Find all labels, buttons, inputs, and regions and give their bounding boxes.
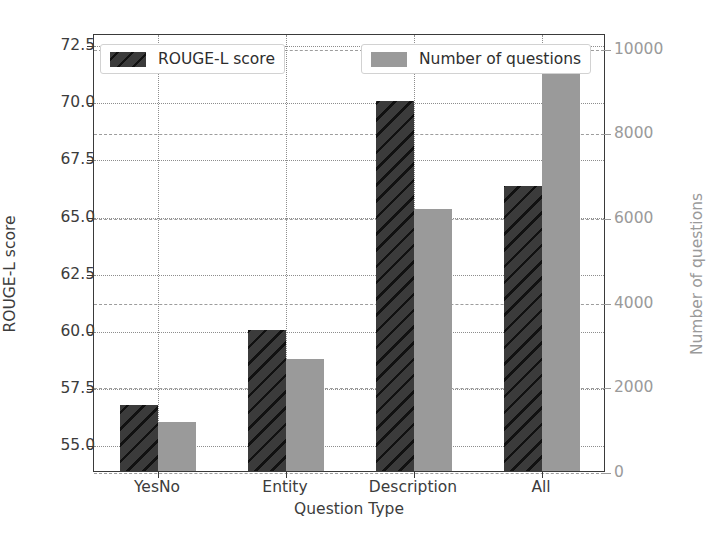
bar-questions-yesno <box>158 422 196 471</box>
bar-rouge-yesno <box>120 405 158 471</box>
legend-label-rouge: ROUGE-L score <box>158 50 275 68</box>
y-tick-label-left: 62.5 <box>0 265 95 283</box>
y-tick-label-left: 60.0 <box>0 322 95 340</box>
x-axis-title: Question Type <box>294 500 404 518</box>
legend-swatch-questions-icon <box>371 52 407 67</box>
y-tick-label-right: 4000 <box>614 294 709 312</box>
x-tick <box>286 471 287 478</box>
gridline-vertical <box>158 35 159 471</box>
x-tick-label: All <box>466 478 616 496</box>
x-tick <box>158 471 159 478</box>
legend-questions: Number of questions <box>361 44 591 74</box>
y-tick-right <box>604 219 611 220</box>
x-tick <box>414 471 415 478</box>
y-tick-right <box>604 473 611 474</box>
y-tick-right <box>604 388 611 389</box>
y-tick-label-left: 72.5 <box>0 36 95 54</box>
legend-rouge: ROUGE-L score <box>100 44 285 74</box>
plot-area <box>93 34 605 472</box>
y-tick-label-left: 55.0 <box>0 436 95 454</box>
y-tick-label-right: 6000 <box>614 209 709 227</box>
bar-questions-all <box>542 63 580 471</box>
y-tick-label-left: 67.5 <box>0 150 95 168</box>
y-tick-label-right: 8000 <box>614 124 709 142</box>
y-tick-label-right: 0 <box>614 463 709 481</box>
bar-questions-description <box>414 209 452 471</box>
legend-swatch-rouge-icon <box>110 52 146 67</box>
gridline-horizontal <box>94 103 604 104</box>
gridline-horizontal-secondary <box>94 473 604 474</box>
bar-rouge-entity <box>248 330 286 471</box>
y-tick-label-left: 70.0 <box>0 93 95 111</box>
bar-questions-entity <box>286 359 324 471</box>
y-tick-label-right: 2000 <box>614 378 709 396</box>
y-tick-label-left: 57.5 <box>0 379 95 397</box>
x-tick <box>542 471 543 478</box>
gridline-horizontal-secondary <box>94 134 604 135</box>
legend-label-questions: Number of questions <box>419 50 581 68</box>
chart-figure: ROUGE-L score Number of questions Questi… <box>0 0 709 548</box>
y-tick-label-left: 65.0 <box>0 208 95 226</box>
y-tick-right <box>604 134 611 135</box>
y-tick-label-right: 10000 <box>614 40 709 58</box>
gridline-horizontal <box>94 160 604 161</box>
bar-rouge-all <box>504 186 542 471</box>
y-tick-right <box>604 50 611 51</box>
bar-rouge-description <box>376 101 414 471</box>
y-tick-right <box>604 304 611 305</box>
